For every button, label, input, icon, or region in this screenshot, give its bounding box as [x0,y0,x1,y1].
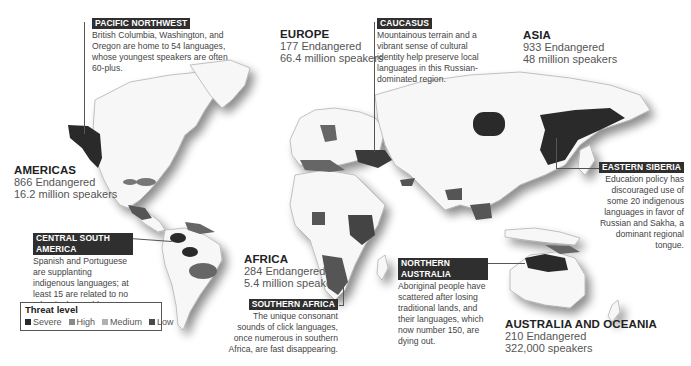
callout-caucasus: CAUCASUS Mountainous terrain and a vibra… [377,18,495,85]
zone-chaco [189,263,217,279]
zone-us-south-2 [136,178,156,186]
region-name: AFRICA [244,253,341,265]
callout-tag: NORTHERN AUSTRALIA [398,258,488,280]
leader-southern-africa-v [343,280,344,305]
medium-swatch-icon [102,319,108,325]
zone-us-south-1 [123,179,137,185]
callout-southern-africa: SOUTHERN AFRICA The unique consonant sou… [228,299,338,355]
callout-tag: CENTRAL SOUTH AMERICA [33,233,133,255]
endangered-count: 210 Endangered [505,330,657,342]
zone-amazon-2 [182,247,198,257]
endangered-count: 866 Endangered [14,176,117,188]
legend-label: Low [157,317,174,327]
speaker-count: 16.2 million speakers [14,188,117,200]
endangered-count: 177 Endangered [280,40,383,52]
callout-eastern-siberia: EASTERN SIBERIA Education policy has dis… [592,162,684,251]
low-swatch-icon [149,319,155,325]
speaker-count: 66.4 million speakers [280,52,383,64]
zone-caucasus [355,150,392,168]
speaker-count: 48 million speakers [523,53,617,65]
callout-central-south-america: CENTRAL SOUTH AMERICA Spanish and Portug… [33,233,133,311]
endangered-count: 933 Endangered [523,41,617,53]
callout-tag: PACIFIC NORTHWEST [92,18,190,29]
high-swatch-icon [69,319,75,325]
severe-swatch-icon [25,319,31,325]
zone-central-siberia [473,112,505,136]
region-label-asia: ASIA 933 Endangered 48 million speakers [523,29,617,65]
legend-title: Threat level [25,304,78,315]
zone-amazon-1 [170,233,186,243]
legend-label: Severe [33,317,62,327]
zone-west-africa [312,212,325,225]
region-label-americas: AMERICAS 866 Endangered 16.2 million spe… [14,164,117,200]
legend-item-severe: Severe [25,317,62,327]
zone-himalaya [445,188,462,200]
callout-text: Aboriginal people have scattered after l… [398,281,488,347]
region-label-oceania: AUSTRALIA AND OCEANIA 210 Endangered 322… [505,318,657,354]
zone-middle-east [400,178,415,186]
callout-tag: EASTERN SIBERIA [599,162,684,173]
callout-pacific-northwest: PACIFIC NORTHWEST British Columbia, Wash… [92,18,242,74]
legend-item-low: Low [149,317,174,327]
legend-label: Medium [110,317,142,327]
region-name: EUROPE [280,28,383,40]
speaker-count: 5.4 million speakers [244,277,341,289]
leader-pacific-northwest [84,22,85,134]
callout-text: Education policy has discouraged use of … [592,174,684,251]
callout-northern-australia: NORTHERN AUSTRALIA Aboriginal people hav… [398,258,488,347]
madagascar-landmass [377,255,388,280]
speaker-count: 322,000 speakers [505,342,657,354]
region-name: AMERICAS [14,164,117,176]
region-name: ASIA [523,29,617,41]
legend-item-medium: Medium [102,317,142,327]
region-name: AUSTRALIA AND OCEANIA [505,318,657,330]
region-label-africa: AFRICA 284 Endangered 5.4 million speake… [244,253,341,289]
leader-southern-africa-h [339,305,344,306]
callout-tag: CAUCASUS [377,18,432,29]
legend-item-high: High [69,317,96,327]
zone-indochina [470,203,492,220]
region-label-europe: EUROPE 177 Endangered 66.4 million speak… [280,28,383,64]
callout-text: Mountainous terrain and a vibrant sense … [377,30,495,85]
indonesia-landmass [505,228,580,245]
endangered-count: 284 Endangered [244,265,341,277]
south-america-landmass [162,228,222,330]
callout-text: The unique consonant sounds of click lan… [228,311,338,355]
callout-text: British Columbia, Washington, and Oregon… [92,30,242,74]
legend-label: High [77,317,96,327]
callout-tag: SOUTHERN AFRICA [249,299,338,310]
leader-eastern-siberia-v [556,138,557,168]
threat-level-legend: Threat level Severe High Medium Low [20,302,162,331]
